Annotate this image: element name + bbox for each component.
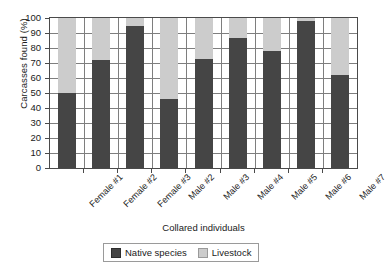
legend-entry: Livestock [198,247,252,258]
x-tick-label: Male #3 [221,172,251,202]
x-tick-label: Male #2 [187,172,217,202]
bar-segment-native-species [297,21,315,168]
y-tick-label: 20 [30,133,41,143]
y-tick-label: 60 [30,73,41,83]
legend-label: Livestock [212,247,252,258]
bar-segment-native-species [92,60,110,168]
bar [297,18,315,168]
bar-segment-livestock [263,18,281,51]
y-tick-label: 100 [25,13,41,23]
y-tick-label: 90 [30,28,41,38]
bar-segment-native-species [263,51,281,168]
bar [331,18,349,168]
bar [263,18,281,168]
bar [195,18,213,168]
y-tick-label: 80 [30,43,41,53]
y-tick-label: 40 [30,103,41,113]
x-tick-label: Female #3 [156,172,193,209]
bar-segment-native-species [160,99,178,168]
bar [126,18,144,168]
bar-segment-livestock [229,18,247,38]
bar-segment-native-species [126,26,144,169]
x-axis-tick-labels: Female #1Female #2Female #3Male #2Male #… [49,172,358,220]
x-tick-label: Male #6 [323,172,353,202]
bar [58,18,76,168]
bar [92,18,110,168]
x-tick-label: Female #1 [88,172,125,209]
x-tick-label: Male #7 [357,172,387,202]
bar-segment-native-species [229,38,247,169]
y-tick-label: 10 [30,148,41,158]
x-tick-label: Male #4 [255,172,285,202]
bar-segment-native-species [58,93,76,168]
light-swatch-icon [198,248,208,258]
bar-segment-livestock [331,18,349,75]
legend-label: Native species [125,247,187,258]
bar-group [50,18,357,168]
chart-legend: Native speciesLivestock [103,243,259,262]
legend-entry: Native species [111,247,187,258]
bar-segment-livestock [195,18,213,59]
bar-segment-livestock [58,18,76,93]
bar [229,18,247,168]
dark-swatch-icon [111,248,121,258]
x-tick-label: Male #5 [289,172,319,202]
y-tick-label: 0 [36,163,41,173]
y-axis-ticks: 0102030405060708090100 [0,17,49,169]
x-tick-label: Female #2 [122,172,159,209]
y-tick-label: 50 [30,88,41,98]
plot-area [49,17,358,169]
bar [160,18,178,168]
bar-segment-livestock [92,18,110,60]
bar-segment-native-species [195,59,213,169]
x-axis-title: Collared individuals [49,222,358,233]
y-tick-label: 70 [30,58,41,68]
y-tick-label: 30 [30,118,41,128]
bar-segment-native-species [331,75,349,168]
bar-segment-livestock [160,18,178,99]
bar-segment-livestock [126,18,144,26]
